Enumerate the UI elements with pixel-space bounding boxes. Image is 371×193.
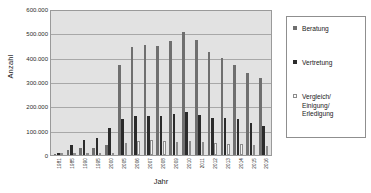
legend-label: Vertretung <box>302 59 332 68</box>
x-axis-tick-label: 2014 <box>239 158 244 169</box>
bar-group <box>116 11 129 155</box>
bar-group <box>103 11 116 155</box>
y-axis-tick-label: 100.000 <box>18 129 48 135</box>
x-axis-tick-label: 2013 <box>226 158 231 169</box>
x-axis-tick: 2011 <box>193 158 206 174</box>
bar <box>86 153 89 155</box>
y-axis-tick-label: 0 <box>18 153 48 159</box>
bar <box>160 116 163 155</box>
legend-label: Beratung <box>302 25 329 34</box>
bar <box>208 52 211 155</box>
bar <box>221 58 224 155</box>
bar <box>60 153 63 155</box>
bar-group <box>180 11 193 155</box>
x-axis-tick: 2008 <box>155 158 168 174</box>
bar <box>112 153 115 155</box>
chart-legend: BeratungVertretungVergleich/ Einigung/ E… <box>286 16 366 138</box>
bar <box>134 116 137 155</box>
bar <box>233 65 236 155</box>
bar-group <box>244 11 257 155</box>
bar-group <box>90 11 103 155</box>
bar-group <box>155 11 168 155</box>
x-axis-tick: 2000 <box>103 158 116 174</box>
x-axis-tick-label: 2005 <box>122 158 127 169</box>
y-axis-tick-label: 600.000 <box>18 7 48 13</box>
x-axis-tick: 2005 <box>116 158 129 174</box>
bar-group <box>129 11 142 155</box>
bar <box>227 144 230 155</box>
bar <box>250 123 253 155</box>
x-axis-tick-label: 2015 <box>252 158 257 169</box>
bar <box>105 145 108 155</box>
x-axis-tick-label: 2011 <box>200 158 205 168</box>
bar <box>163 141 166 155</box>
x-axis-tick-label: 2007 <box>148 158 153 169</box>
x-axis-tick-label: 2006 <box>135 158 140 169</box>
bar <box>150 140 153 155</box>
bar <box>262 126 265 155</box>
bar <box>67 150 70 155</box>
x-axis-tick: 2012 <box>206 158 219 174</box>
bar <box>73 153 76 155</box>
bar <box>259 78 262 155</box>
bar-group <box>257 11 270 155</box>
plot-area <box>50 10 272 156</box>
bar <box>246 73 249 155</box>
bar <box>237 119 240 155</box>
bar <box>125 143 128 155</box>
x-axis-tick: 2016 <box>258 158 271 174</box>
bar <box>195 40 198 155</box>
x-axis-tick: 2009 <box>167 158 180 174</box>
bar <box>79 148 82 155</box>
bar <box>176 142 179 155</box>
bar <box>224 118 227 155</box>
bar-group <box>232 11 245 155</box>
y-axis-tick-label: 200.000 <box>18 104 48 110</box>
bar-group <box>78 11 91 155</box>
bar-group <box>219 11 232 155</box>
legend-marker-icon <box>293 60 297 64</box>
bar <box>96 138 99 155</box>
bar <box>240 144 243 155</box>
x-axis-tick-label: 2016 <box>264 158 269 169</box>
bar <box>182 32 185 155</box>
bar <box>57 153 60 155</box>
x-axis-tick: 2014 <box>232 158 245 174</box>
bar-group <box>142 11 155 155</box>
x-axis-tick: 2010 <box>180 158 193 174</box>
bar <box>83 140 86 155</box>
x-axis-tick: 1985 <box>64 158 77 174</box>
bar <box>118 65 121 155</box>
bar-groups <box>51 11 271 155</box>
bar <box>99 153 102 155</box>
bar <box>214 143 217 155</box>
x-axis-tick: 1995 <box>90 158 103 174</box>
legend-item: Beratung <box>293 25 365 59</box>
x-axis-tick-label: 1990 <box>83 158 88 169</box>
bar-group <box>167 11 180 155</box>
bar <box>131 47 134 155</box>
bar <box>108 128 111 155</box>
bar <box>70 145 73 155</box>
x-axis-tick: 2013 <box>219 158 232 174</box>
bar <box>185 112 188 155</box>
x-axis-tick-label: 2012 <box>213 158 218 169</box>
x-axis-tick-labels: 1981198519901995200020052006200720082009… <box>50 158 272 174</box>
bar <box>144 45 147 155</box>
bar <box>156 46 159 155</box>
bar <box>169 41 172 155</box>
y-axis-title: Anzahl <box>6 37 15 97</box>
x-axis-title: Jahr <box>50 177 272 186</box>
x-axis-tick-label: 1985 <box>70 158 75 169</box>
y-axis-tick-label: 500.000 <box>18 31 48 37</box>
x-axis-tick-label: 2010 <box>187 158 192 169</box>
x-axis-tick: 1981 <box>51 158 64 174</box>
y-axis-tick-labels: 0100.000200.000300.000400.000500.000600.… <box>18 10 48 156</box>
bar <box>121 119 124 155</box>
bar <box>198 115 201 155</box>
x-axis-tick-label: 1995 <box>96 158 101 169</box>
bar <box>147 116 150 155</box>
x-axis-tick: 2007 <box>142 158 155 174</box>
bar <box>189 141 192 155</box>
x-axis-tick-label: 2008 <box>161 158 166 169</box>
